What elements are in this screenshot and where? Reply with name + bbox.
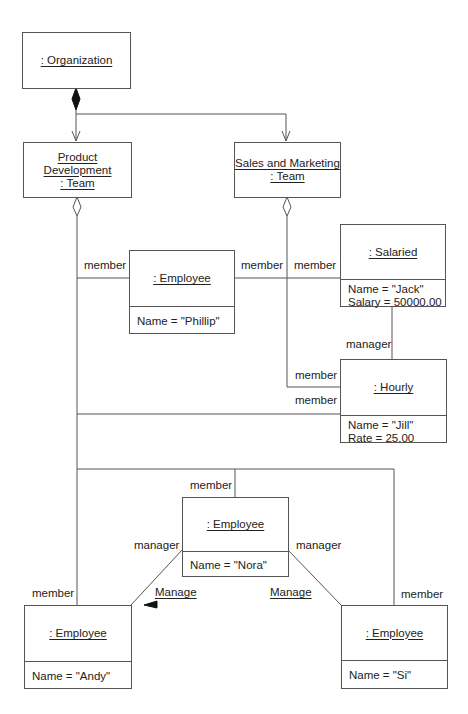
role-label-member: member	[294, 259, 336, 272]
role-label-member: member	[295, 394, 337, 407]
link-name-manage: Manage	[155, 586, 197, 599]
object-name: : Employee	[49, 627, 107, 640]
attribute-name: Name = "Nora"	[190, 559, 288, 572]
object-employee-phillip[interactable]: : Employee Name = "Phillip"	[129, 250, 235, 334]
role-label-member: member	[241, 259, 283, 272]
aggregation-diamond-icon	[73, 197, 81, 216]
aggregation-diamond-icon	[283, 197, 291, 216]
role-label-member: member	[295, 369, 337, 382]
role-label-manager: manager	[296, 539, 341, 552]
attribute-name: Name = "Phillip"	[137, 315, 234, 328]
attribute-name: Name = "Si"	[349, 669, 447, 682]
object-name-line2: : Team	[270, 170, 304, 183]
object-name-line1: Sales and Marketing	[235, 157, 340, 170]
object-sales-marketing-team[interactable]: Sales and Marketing : Team	[234, 142, 341, 198]
role-label-member: member	[190, 479, 232, 492]
object-salaried-jack[interactable]: : Salaried Name = "Jack" Salary = 50000.…	[340, 224, 446, 307]
role-label-member: member	[401, 588, 443, 601]
attribute-name: Name = "Jack"	[348, 283, 445, 296]
role-label-member: member	[84, 259, 126, 272]
object-name-line1: Product Development	[24, 151, 131, 177]
object-name: : Salaried	[369, 246, 418, 259]
attribute-salary: Salary = 50000.00	[348, 296, 445, 309]
object-name: : Hourly	[374, 381, 414, 394]
object-name-line2: : Team	[60, 177, 94, 190]
object-employee-andy[interactable]: : Employee Name = "Andy"	[24, 605, 132, 689]
role-label-manager: manager	[134, 539, 179, 552]
object-name: : Organization	[41, 54, 113, 67]
attribute-name: Name = "Jill"	[348, 419, 446, 432]
object-name: : Employee	[207, 518, 265, 531]
object-hourly-jill[interactable]: : Hourly Name = "Jill" Rate = 25.00	[340, 359, 447, 443]
object-product-development-team[interactable]: Product Development : Team	[23, 142, 132, 198]
object-name: : Employee	[153, 272, 211, 285]
object-name: : Employee	[366, 627, 424, 640]
role-label-member: member	[32, 587, 74, 600]
object-organization[interactable]: : Organization	[22, 32, 131, 89]
direction-arrow-icon	[144, 601, 157, 608]
attribute-name: Name = "Andy"	[32, 670, 131, 683]
attribute-rate: Rate = 25.00	[348, 432, 446, 445]
role-label-manager: manager	[346, 338, 391, 351]
object-employee-si[interactable]: : Employee Name = "Si"	[341, 605, 448, 689]
link-name-manage: Manage	[270, 586, 312, 599]
object-employee-nora[interactable]: : Employee Name = "Nora"	[182, 497, 289, 577]
composition-diamond-icon	[72, 88, 80, 110]
